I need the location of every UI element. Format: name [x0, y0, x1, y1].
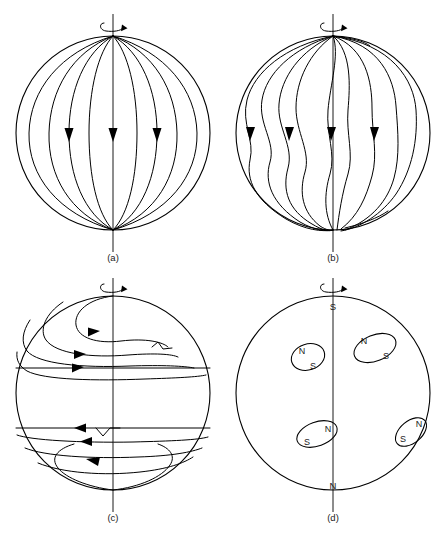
spot-polarity-leading: N — [361, 336, 368, 346]
panel-d: S N N S N S N S N — [236, 278, 432, 523]
solar-dynamo-figure: (a) — [0, 0, 447, 545]
panel-b: (b) — [236, 14, 430, 263]
spot-polarity-trailing: S — [304, 437, 310, 447]
spot-polarity-trailing: S — [383, 351, 389, 361]
spot-pair-outline — [293, 416, 341, 453]
spot-pair-upper-left: N S — [288, 339, 328, 374]
panel-c: (c) — [16, 278, 210, 523]
rotation-arrow-icon-a — [100, 23, 127, 31]
spot-pair-upper-right: N S — [350, 328, 401, 369]
panel-caption-b: (b) — [327, 252, 339, 263]
rotation-arrow-icon-c — [100, 284, 127, 292]
spot-pair-outline — [288, 339, 328, 374]
north-pole-polarity-label: S — [330, 301, 336, 312]
field-kink-south-c — [96, 428, 120, 436]
south-pole-polarity-label: N — [330, 480, 337, 491]
panel-caption-c: (c) — [107, 512, 118, 523]
rotation-arrow-icon-b — [320, 23, 347, 31]
field-arrowheads-south-c — [74, 424, 100, 467]
spot-polarity-trailing: S — [400, 434, 406, 444]
spot-pair-outline — [390, 412, 432, 452]
field-arrowheads-a — [65, 128, 162, 142]
spot-polarity-trailing: S — [310, 361, 316, 371]
spot-polarity-leading: N — [416, 419, 423, 429]
spot-polarity-leading: N — [299, 346, 306, 356]
spot-pair-lower-left: N S — [293, 416, 341, 453]
spot-polarity-leading: N — [325, 424, 332, 434]
panel-caption-d: (d) — [327, 512, 339, 523]
panel-caption-a: (a) — [107, 252, 119, 263]
spot-pair-outline — [350, 328, 401, 369]
figure-root: (a) — [0, 0, 447, 545]
rotation-arrow-icon-d — [320, 284, 347, 292]
spot-pair-lower-right: N S — [390, 412, 432, 452]
panel-a: (a) — [16, 14, 210, 263]
